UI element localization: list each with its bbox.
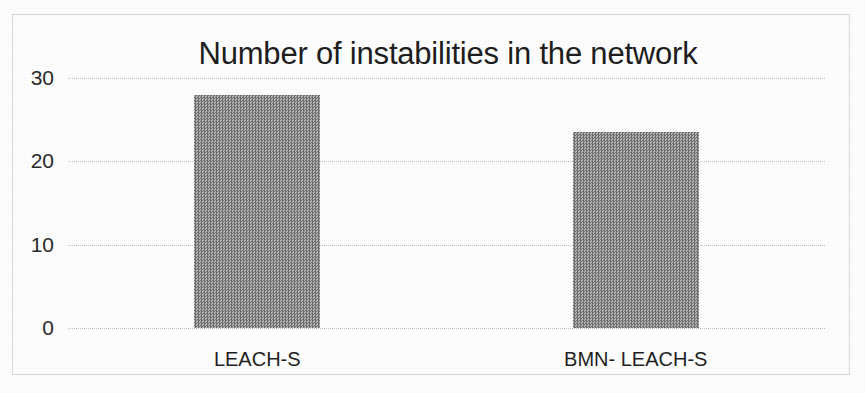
gridline	[68, 245, 825, 246]
gridline	[68, 328, 825, 329]
bar	[573, 132, 699, 328]
y-axis-tick-label: 20	[31, 149, 54, 173]
chart-figure: Number of instabilities in the network 0…	[0, 0, 865, 393]
bar	[194, 95, 320, 328]
plot-area: 0102030LEACH-SBMN- LEACH-S	[68, 78, 825, 328]
y-axis-tick-label: 10	[31, 233, 54, 257]
y-axis-tick-label: 0	[42, 316, 54, 340]
x-axis-tick-label: BMN- LEACH-S	[564, 348, 707, 371]
y-axis-tick-label: 30	[31, 66, 54, 90]
gridline	[68, 78, 825, 79]
x-axis-tick-label: LEACH-S	[214, 348, 301, 371]
gridline	[68, 161, 825, 162]
chart-title: Number of instabilities in the network	[68, 36, 828, 72]
